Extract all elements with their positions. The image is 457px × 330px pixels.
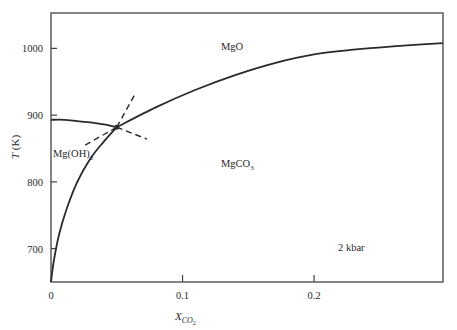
x-axis-ticks: 00.10.2	[48, 275, 320, 301]
reaction-curve	[117, 43, 443, 127]
x-tick-label: 0	[48, 290, 53, 301]
field-label-mgco3: MgCO3	[221, 158, 254, 172]
x-tick-label: 0.2	[308, 290, 321, 301]
y-tick-label: 700	[27, 244, 43, 255]
invariant-point	[114, 125, 119, 130]
reaction-curve	[51, 120, 117, 127]
y-tick-label: 1000	[22, 43, 43, 54]
metastable-extension-line	[117, 127, 147, 139]
plot-frame	[51, 13, 443, 282]
y-tick-label: 900	[27, 110, 43, 121]
metastable-extension-line	[85, 127, 117, 145]
x-axis-label: XCO2	[174, 310, 196, 326]
x-tick-label: 0.1	[176, 290, 189, 301]
y-tick-label: 800	[27, 177, 43, 188]
y-axis-label: T (K)	[9, 135, 22, 159]
field-label-mgoh2: Mg(OH)2	[53, 148, 94, 162]
field-label-mgo: MgO	[221, 41, 244, 52]
y-axis-ticks: 7008009001000	[22, 43, 57, 254]
pressure-label: 2 kbar	[338, 242, 365, 253]
phase-diagram: 7008009001000 00.10.2 T (K) XCO2 MgO MgC…	[0, 0, 457, 330]
